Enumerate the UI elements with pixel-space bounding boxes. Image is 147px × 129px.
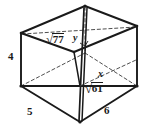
dimension-label-base-right: 6 [104,105,110,116]
vertex-top-left [20,32,23,35]
vertex-top-back [84,5,87,8]
vertex-top-right [136,25,139,28]
geometry-figure: 4 5 6 y x √77 √61 [0,0,147,129]
edge-top-face [21,6,137,52]
vertex-bottom-front [78,120,81,123]
dimension-label-base-left: 5 [27,106,33,117]
vertex-bottom-left [19,84,22,87]
radical-value-61: 61 [91,82,103,95]
variable-label-y: y [73,33,77,43]
segment-front-vertical-connector [74,52,80,86]
vertex-bottom-right [135,84,138,87]
radical-label-sqrt77: √77 [46,29,64,48]
prism-drawing [0,0,147,129]
radical-label-sqrt61: √61 [85,78,103,97]
vertex-top-front [73,51,76,54]
radical-value-77: 77 [52,33,64,46]
dimension-label-height: 4 [8,51,14,62]
right-angle-tick [80,41,88,46]
